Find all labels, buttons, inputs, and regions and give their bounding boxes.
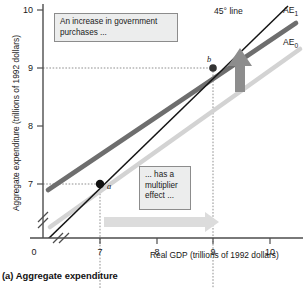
x-axis-title: Real GDP (trillions of 1992 dollars) [150,250,279,260]
series-label-ae0: AE0 [283,37,298,49]
y-axis-title: Aggregate expenditure (trillions of 1992… [11,23,21,223]
aggregate-expenditure-chart: 10 9 8 7 0 7 8 9 10 a b 45° line AE1 AE0… [0,0,307,289]
series-line-ae1 [48,23,296,190]
shift-right-arrow-icon [104,212,219,232]
y-tick-label-10: 10 [23,5,33,15]
data-point-b [209,64,217,72]
data-point-label-b: b [207,55,211,64]
y-tick-label-9: 9 [28,63,33,73]
data-point-a [96,180,104,188]
chart-canvas: 10 9 8 7 0 7 8 9 10 a b 45° line AE1 AE0 [0,0,307,289]
x-tick-label-0: 0 [31,247,36,257]
figure-caption: (a) Aggregate expenditure [2,270,118,281]
series-label-ae1: AE1 [283,5,298,17]
data-point-label-a: a [107,182,111,191]
series-label-45-degree: 45° line [214,6,243,16]
x-tick-label-7: 7 [97,247,102,257]
y-tick-label-8: 8 [28,121,33,131]
y-tick-label-7: 7 [28,179,33,189]
annotation-box-government-purchases: An increase in government purchases ... [54,13,178,42]
annotation-box-multiplier: ... has a multiplier effect ... [139,166,191,210]
series-labels: 45° line AE1 AE0 [214,5,298,49]
